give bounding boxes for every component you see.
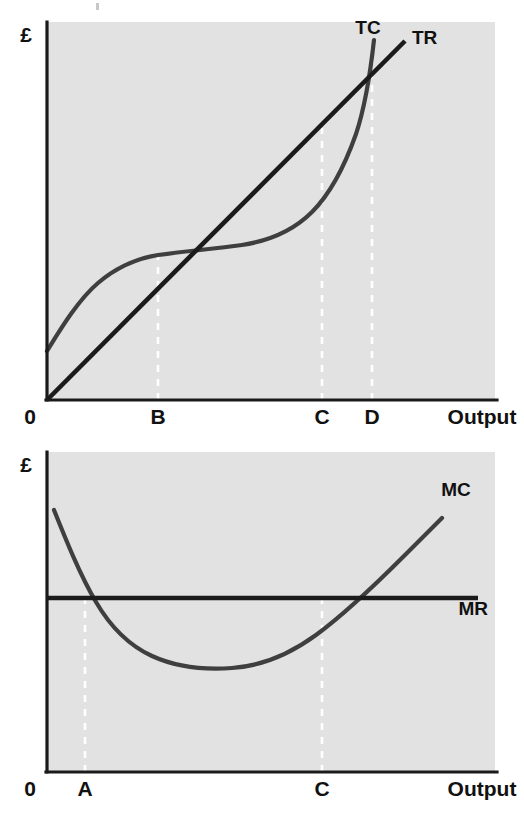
marginal-cost-label: MC [441,479,471,500]
economics-figure: £ TC TR 0 B C D Output [0,0,524,818]
bottom-x-axis-title: Output [448,777,517,800]
bottom-tick-a: A [77,777,92,800]
top-tick-b: B [150,405,165,428]
top-tick-d: D [364,405,379,428]
marginal-revenue-label: MR [458,598,488,619]
bottom-tick-c: C [314,777,329,800]
top-x-axis-title: Output [448,405,517,428]
top-plot-background [47,22,495,400]
top-origin-label: 0 [24,405,36,428]
bottom-origin-label: 0 [24,777,36,800]
total-cost-revenue-chart: £ TC TR 0 B C D Output [0,0,524,440]
top-currency-label: £ [20,23,32,46]
bottom-currency-label: £ [20,453,32,476]
scan-speck [96,3,99,10]
total-cost-label: TC [355,17,381,38]
bottom-plot-background [47,452,495,772]
top-tick-c: C [314,405,329,428]
total-revenue-label: TR [412,27,438,48]
marginal-cost-revenue-chart: £ MC MR 0 A C Output [0,430,524,818]
